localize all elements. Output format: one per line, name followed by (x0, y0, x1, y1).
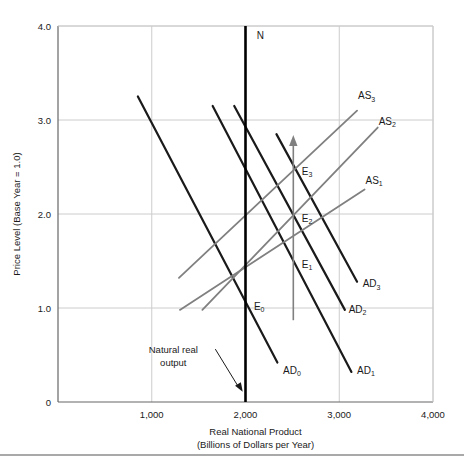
x-axis-title-line1: Real National Product (209, 426, 302, 437)
y-tick-label-0: 0 (46, 397, 51, 408)
x-tick-label-1000: 1,000 (140, 409, 164, 420)
annotation-line2: output (160, 357, 187, 368)
label-natural-output-n: N (257, 30, 264, 41)
chart-canvas: E0E1E2E3 AD0AD1AD2AD3AS1AS2AS3N 1,0002,0… (0, 0, 464, 471)
y-tick-label-4: 4.0 (38, 21, 51, 32)
annotation-line1: Natural real (149, 344, 198, 355)
x-axis-title-line2: (Billions of Dollars per Year) (197, 439, 314, 450)
x-tick-label-3000: 3,000 (327, 409, 351, 420)
y-tick-label-2: 2.0 (38, 209, 51, 220)
y-axis-title: Price Level (Base Year = 1.0) (11, 152, 22, 275)
economics-chart: E0E1E2E3 AD0AD1AD2AD3AS1AS2AS3N 1,0002,0… (0, 0, 464, 471)
chart-background (0, 0, 464, 471)
x-tick-label-4000: 4,000 (421, 409, 445, 420)
x-tick-label-2000: 2,000 (234, 409, 258, 420)
y-tick-label-1: 1.0 (38, 303, 51, 314)
y-tick-label-3: 3.0 (38, 115, 51, 126)
